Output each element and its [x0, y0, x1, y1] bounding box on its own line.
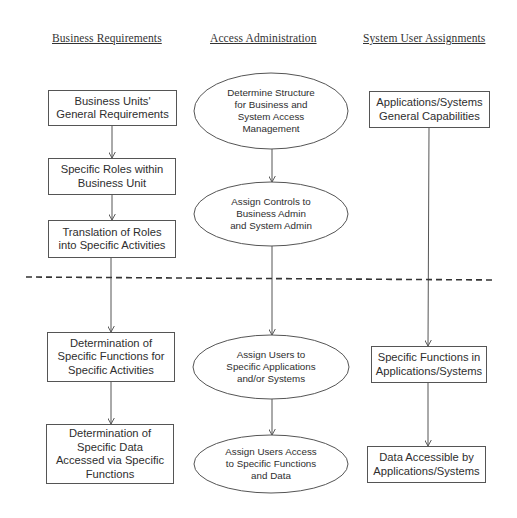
- box-determination-specific-data: Determination of Specific Data Accessed …: [46, 424, 174, 484]
- node-label: Business Units' General Requirements: [56, 95, 169, 122]
- node-label: Data Accessible by Applications/Systems: [373, 451, 479, 478]
- box-specific-functions-in-applications: Specific Functions in Applications/Syste…: [371, 346, 487, 383]
- column-header-system-user-assignments: System User Assignments: [363, 32, 485, 44]
- node-label: Applications/Systems General Capabilitie…: [376, 96, 482, 123]
- arrow-s1-s2: [428, 128, 429, 346]
- box-data-accessible-by-applications: Data Accessible by Applications/Systems: [367, 446, 486, 483]
- box-translation-of-roles: Translation of Roles into Specific Activ…: [48, 220, 176, 258]
- node-label: Determination of Specific Functions for …: [58, 337, 165, 378]
- node-label: Determination of Specific Data Accessed …: [56, 427, 164, 481]
- column-header-access-administration: Access Administration: [210, 32, 317, 44]
- box-determination-specific-functions: Determination of Specific Functions for …: [47, 332, 175, 382]
- phase-divider: [26, 277, 495, 280]
- oval-label-assign-controls: Assign Controls to Business Admin and Sy…: [196, 183, 346, 245]
- node-label: Assign Users to Specific Applications an…: [226, 349, 315, 386]
- node-label: Specific Functions in Applications/Syste…: [376, 351, 482, 378]
- oval-label-assign-users: Assign Users to Specific Applications an…: [195, 336, 347, 398]
- box-specific-roles: Specific Roles within Business Unit: [48, 158, 176, 195]
- node-label: Determine Structure for Business and Sys…: [227, 87, 315, 136]
- node-label: Assign Controls to Business Admin and Sy…: [230, 196, 312, 233]
- oval-label-determine-structure: Determine Structure for Business and Sys…: [196, 74, 346, 148]
- node-label: Translation of Roles into Specific Activ…: [59, 226, 166, 253]
- box-business-units-general-requirements: Business Units' General Requirements: [48, 90, 177, 126]
- node-label: Specific Roles within Business Unit: [61, 163, 164, 190]
- column-header-business-requirements: Business Requirements: [52, 32, 162, 44]
- node-label: Assign Users Access to Specific Function…: [225, 446, 316, 483]
- oval-label-assign-users-access: Assign Users Access to Specific Function…: [196, 436, 346, 492]
- box-applications-general-capabilities: Applications/Systems General Capabilitie…: [369, 91, 490, 128]
